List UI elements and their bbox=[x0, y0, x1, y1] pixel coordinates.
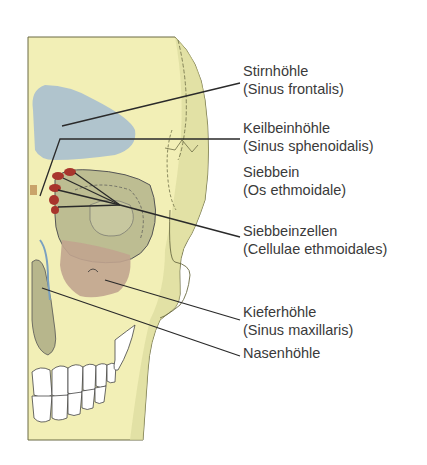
label-latin: (Sinus maxillaris) bbox=[243, 321, 353, 339]
label-siebbein: Siebbein (Os ethmoidale) bbox=[243, 163, 346, 199]
label-latin: (Sinus frontalis) bbox=[243, 80, 344, 98]
label-title: Kieferhöhle bbox=[243, 303, 353, 321]
label-title: Keilbeinhöhle bbox=[243, 119, 374, 137]
label-title: Siebbeinzellen bbox=[243, 222, 387, 240]
label-latin: (Os ethmoidale) bbox=[243, 181, 346, 199]
label-kieferhoehle: Kieferhöhle (Sinus maxillaris) bbox=[243, 303, 353, 339]
label-stirnhoehle: Stirnhöhle (Sinus frontalis) bbox=[243, 62, 344, 98]
label-title: Siebbein bbox=[243, 163, 346, 181]
label-latin: (Sinus sphenoidalis) bbox=[243, 137, 374, 155]
label-nasenhoehle: Nasenhöhle bbox=[243, 344, 320, 362]
label-title: Nasenhöhle bbox=[243, 344, 320, 362]
label-title: Stirnhöhle bbox=[243, 62, 344, 80]
label-latin: (Cellulae ethmoidales) bbox=[243, 240, 387, 258]
label-siebbeinzellen: Siebbeinzellen (Cellulae ethmoidales) bbox=[243, 222, 387, 258]
label-keilbeinhoehle: Keilbeinhöhle (Sinus sphenoidalis) bbox=[243, 119, 374, 155]
